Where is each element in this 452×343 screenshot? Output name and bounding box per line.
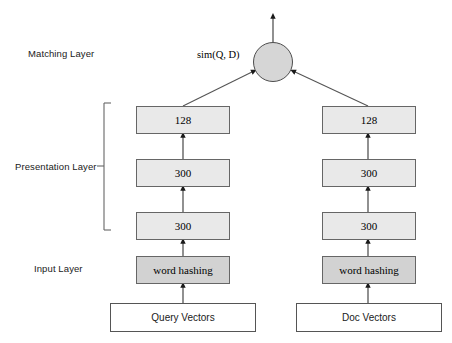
doc-layer-300-lower: 300 [322,212,416,240]
query-vectors-input: Query Vectors [110,303,256,332]
doc-to-similarity-arrow [293,71,368,106]
matching-layer-label: Matching Layer [28,48,94,59]
doc-word-hashing: word hashing [322,256,416,284]
presentation-layer-label: Presentation Layer [15,161,97,172]
doc-layer-128: 128 [322,106,416,134]
query-layer-128: 128 [136,106,230,134]
similarity-node [253,42,293,82]
dssm-diagram: Matching Layer Presentation Layer Input … [0,0,452,343]
input-layer-label: Input Layer [34,263,83,274]
doc-layer-300-upper: 300 [322,159,416,187]
query-layer-300-upper: 300 [136,159,230,187]
query-word-hashing: word hashing [136,256,230,284]
similarity-function-label: sim(Q, D) [197,49,240,60]
query-to-similarity-arrow [183,71,254,106]
query-layer-300-lower: 300 [136,212,230,240]
doc-vectors-input: Doc Vectors [296,303,442,332]
presentation-layer-bracket [97,103,111,230]
